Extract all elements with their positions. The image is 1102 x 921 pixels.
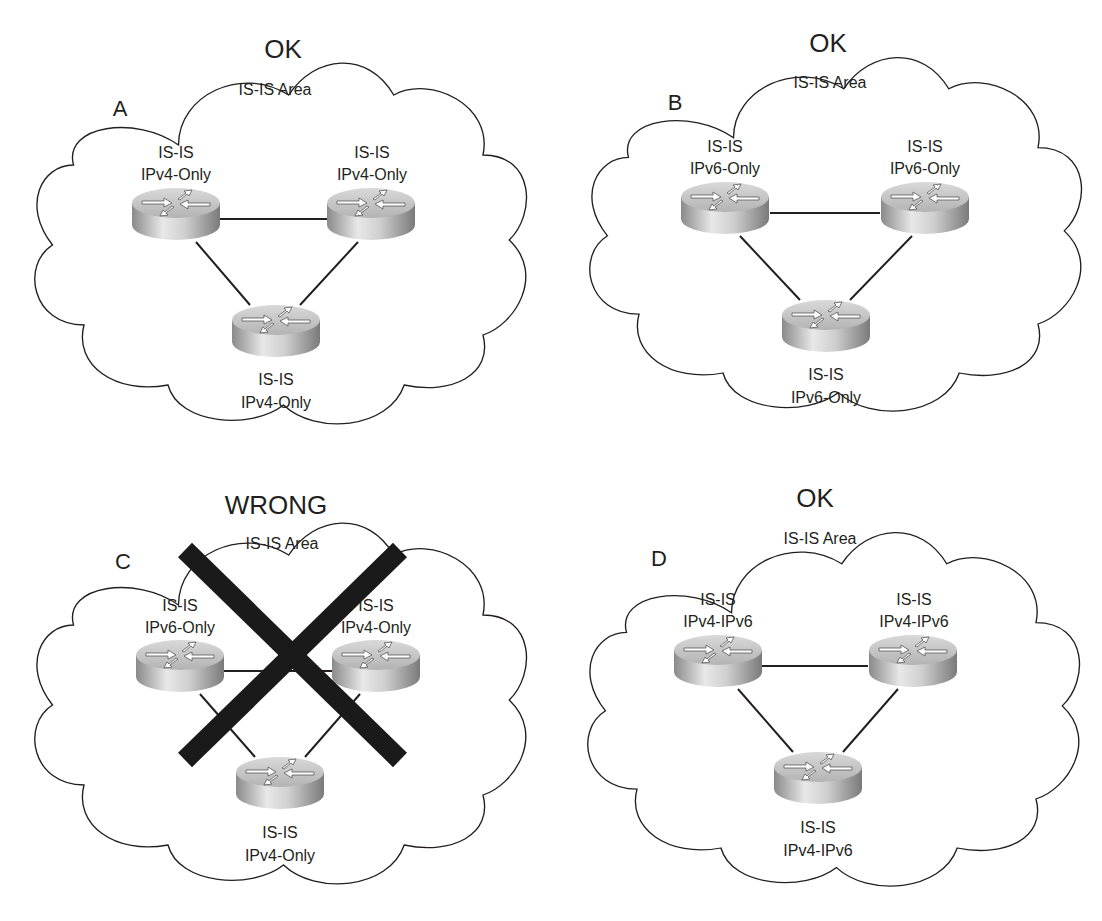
router-label-line2: IPv4-Only <box>337 166 407 183</box>
router-icon <box>332 640 420 692</box>
router-icon <box>132 188 220 240</box>
status-label: WRONG <box>225 490 328 520</box>
cloud-shape <box>590 58 1082 412</box>
router-label-line2: IPv4-IPv6 <box>783 842 852 859</box>
router-label-line2: IPv4-Only <box>341 619 411 636</box>
status-label: OK <box>809 28 847 58</box>
status-label: OK <box>264 34 302 64</box>
panel-b: OK IS-IS Area B IS-IS IPv6-Only IS-IS IP… <box>590 28 1082 411</box>
panel-letter: C <box>115 549 131 574</box>
router-label-line1: IS-IS <box>896 591 932 608</box>
area-label: IS-IS Area <box>794 74 867 91</box>
router-label-line1: IS-IS <box>700 591 736 608</box>
panel-letter: D <box>651 546 667 571</box>
router-label-line2: IPv4-IPv6 <box>879 613 948 630</box>
panel-c: WRONG IS-IS Area C IS-IS IPv6-Only IS-IS… <box>35 490 527 884</box>
router-label-line1: IS-IS <box>258 371 294 388</box>
router-label-line1: IS-IS <box>262 824 298 841</box>
router-icon <box>674 635 762 687</box>
router-label-line1: IS-IS <box>158 144 194 161</box>
panel-letter: A <box>113 96 128 121</box>
router-label-line2: IPv6-Only <box>890 160 960 177</box>
status-label: OK <box>796 483 834 513</box>
router-icon <box>881 182 969 234</box>
router-icon <box>327 188 415 240</box>
router-label-line2: IPv6-Only <box>690 160 760 177</box>
area-label: IS-IS Area <box>246 535 319 552</box>
router-label-line1: IS-IS <box>354 144 390 161</box>
area-label: IS-IS Area <box>784 530 857 547</box>
area-label: IS-IS Area <box>239 81 312 98</box>
router-icon <box>681 182 769 234</box>
panel-d: OK IS-IS Area D IS-IS IPv4-IPv6 IS-IS IP… <box>588 483 1080 886</box>
router-label-line2: IPv6-Only <box>145 619 215 636</box>
panel-letter: B <box>668 90 683 115</box>
router-label-line2: IPv4-Only <box>241 394 311 411</box>
router-icon <box>782 300 870 352</box>
router-label-line2: IPv4-IPv6 <box>683 613 752 630</box>
router-icon <box>869 635 957 687</box>
router-label-line1: IS-IS <box>707 138 743 155</box>
router-label-line1: IS-IS <box>808 366 844 383</box>
router-label-line2: IPv4-Only <box>245 847 315 864</box>
router-label-line1: IS-IS <box>162 597 198 614</box>
router-label-line1: IS-IS <box>907 138 943 155</box>
cloud-shape <box>35 63 527 424</box>
router-label-line2: IPv4-Only <box>141 166 211 183</box>
router-icon <box>232 305 320 357</box>
panel-a: OK IS-IS Area A IS-IS IPv4-Only IS-IS IP… <box>35 34 527 424</box>
router-icon <box>236 757 324 809</box>
router-icon <box>774 752 862 804</box>
diagram-canvas: OK IS-IS Area A IS-IS IPv4-Only IS-IS IP… <box>0 0 1102 921</box>
router-label-line2: IPv6-Only <box>791 389 861 406</box>
router-label-line1: IS-IS <box>800 819 836 836</box>
router-icon <box>136 640 224 692</box>
